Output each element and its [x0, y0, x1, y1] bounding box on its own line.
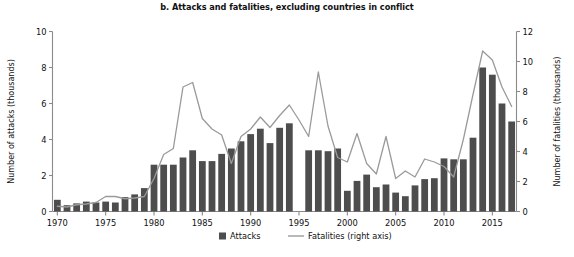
- x-axis-tick-label: 1995: [288, 218, 309, 228]
- chart-figure: b. Attacks and fatalities, excluding cou…: [0, 0, 574, 257]
- attacks-bar: [170, 165, 177, 212]
- attacks-bar: [315, 150, 322, 211]
- right-axis-tick-label: 12: [523, 27, 534, 37]
- attacks-bar: [218, 154, 225, 212]
- right-axis-tick-label: 10: [523, 57, 534, 67]
- attacks-bar: [112, 203, 119, 212]
- x-axis-tick-label: 2000: [337, 218, 358, 228]
- right-axis-title: Number of fatalities (thousands): [553, 57, 562, 187]
- x-axis-tick-label: 2010: [433, 218, 454, 228]
- right-axis-tick-label: 6: [523, 117, 528, 127]
- attacks-bar: [431, 178, 438, 211]
- left-axis-tick-label: 10: [36, 27, 47, 37]
- attacks-bar: [267, 143, 274, 211]
- left-axis-tick-label: 2: [41, 171, 46, 181]
- attacks-bar: [286, 123, 293, 211]
- attacks-bar: [460, 159, 467, 211]
- legend-label-fatalities: Fatalities (right axis): [308, 231, 392, 241]
- x-axis-tick-label: 1985: [192, 218, 213, 228]
- left-axis-tick-label: 4: [41, 135, 46, 145]
- attacks-bar: [354, 181, 361, 212]
- chart-plot-area: 0246810 024681012 1970197519801985199019…: [0, 0, 574, 257]
- attacks-bar: [160, 165, 167, 212]
- x-axis-tick-label: 2005: [385, 218, 406, 228]
- attacks-bar: [325, 151, 332, 211]
- right-axis-tick-label: 0: [523, 207, 528, 217]
- attacks-bar: [383, 185, 390, 212]
- attacks-bar: [489, 75, 496, 212]
- left-axis-title: Number of attacks (thousands): [7, 59, 16, 184]
- attacks-bar: [209, 161, 216, 211]
- attacks-bar: [247, 134, 254, 211]
- attacks-bar: [102, 202, 109, 212]
- attacks-bar: [508, 122, 515, 212]
- attacks-bar: [499, 104, 506, 212]
- attacks-bar: [257, 129, 264, 212]
- left-axis-tick-label: 8: [41, 63, 46, 73]
- legend-label-attacks: Attacks: [230, 231, 260, 241]
- attacks-bar: [402, 196, 409, 211]
- left-axis: 0246810: [36, 27, 53, 217]
- attacks-bar: [199, 161, 206, 211]
- attacks-bar: [470, 138, 477, 212]
- attacks-bar: [373, 187, 380, 211]
- attacks-bar: [189, 150, 196, 211]
- attacks-bar: [412, 185, 419, 211]
- x-axis: 1970197519801985199019952000200520102015: [47, 212, 517, 228]
- attacks-bar: [421, 179, 428, 211]
- attacks-bar: [93, 203, 100, 212]
- x-axis-tick-label: 1980: [143, 218, 164, 228]
- attacks-bar: [131, 194, 138, 211]
- x-axis-tick-label: 1975: [95, 218, 116, 228]
- attacks-bar: [180, 158, 187, 212]
- attacks-bar: [363, 175, 370, 212]
- chart-legend: AttacksFatalities (right axis): [219, 231, 392, 241]
- right-axis-tick-label: 2: [523, 177, 528, 187]
- right-axis-tick-label: 4: [523, 147, 528, 157]
- right-axis-tick-label: 8: [523, 87, 528, 97]
- attacks-bar: [479, 68, 486, 212]
- x-axis-tick-label: 1970: [47, 218, 68, 228]
- attacks-bar: [276, 128, 283, 212]
- attacks-bar: [305, 150, 312, 211]
- attacks-bar: [344, 191, 351, 212]
- left-axis-tick-label: 6: [41, 99, 46, 109]
- attacks-bar-series: [54, 68, 515, 212]
- x-axis-tick-label: 2015: [482, 218, 503, 228]
- right-axis: 024681012: [517, 27, 534, 217]
- x-axis-tick-label: 1990: [240, 218, 261, 228]
- axis-titles: Number of attacks (thousands)Number of f…: [7, 57, 562, 187]
- attacks-bar: [392, 193, 399, 212]
- legend-swatch-attacks: [219, 233, 226, 240]
- attacks-bar: [238, 141, 245, 211]
- left-axis-tick-label: 0: [41, 207, 46, 217]
